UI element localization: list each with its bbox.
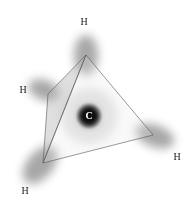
carbon-label: C	[85, 111, 92, 121]
hydrogen-label-top: H	[80, 17, 87, 27]
methane-diagram	[0, 0, 193, 204]
hydrogen-label-left: H	[19, 85, 26, 95]
hydrogen-label-bottom-left: H	[21, 186, 28, 196]
hydrogen-label-right: H	[173, 152, 180, 162]
